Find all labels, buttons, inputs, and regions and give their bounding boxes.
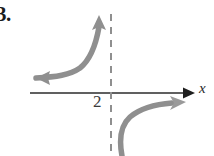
curve-right-branch-path: [121, 103, 172, 156]
curve-left-arrowhead-icon: [36, 71, 50, 85]
curve-left-branch-path: [36, 27, 99, 78]
x-axis-label: x: [199, 81, 206, 96]
figure-container: 3. 2 x: [0, 0, 214, 156]
curve-left-branch: [36, 15, 106, 85]
graph-svg: [0, 0, 214, 156]
x-tick-label-2: 2: [93, 93, 102, 110]
x-axis: [30, 88, 195, 99]
curve-right-branch: [121, 96, 186, 156]
x-axis-arrowhead-icon: [183, 88, 195, 99]
